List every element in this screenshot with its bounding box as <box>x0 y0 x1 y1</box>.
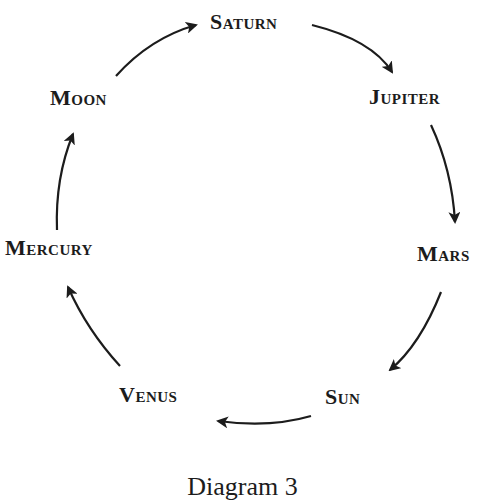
arrow-venus-to-mercury <box>68 287 120 366</box>
arrow-mercury-to-moon <box>57 134 73 230</box>
node-moon: Moon <box>50 87 107 109</box>
node-venus: Venus <box>119 384 177 406</box>
node-jupiter: Jupiter <box>369 86 440 108</box>
node-mars: Mars <box>417 243 470 265</box>
arrow-saturn-to-jupiter <box>312 25 392 72</box>
node-saturn: Saturn <box>210 11 277 33</box>
node-mercury: Mercury <box>5 237 93 259</box>
diagram-caption: Diagram 3 <box>0 474 485 500</box>
arrow-jupiter-to-mars <box>431 125 455 222</box>
arrow-sun-to-venus <box>218 416 311 424</box>
arrow-mars-to-sun <box>390 292 441 370</box>
arrow-moon-to-saturn <box>116 25 196 76</box>
node-sun: Sun <box>325 386 360 408</box>
